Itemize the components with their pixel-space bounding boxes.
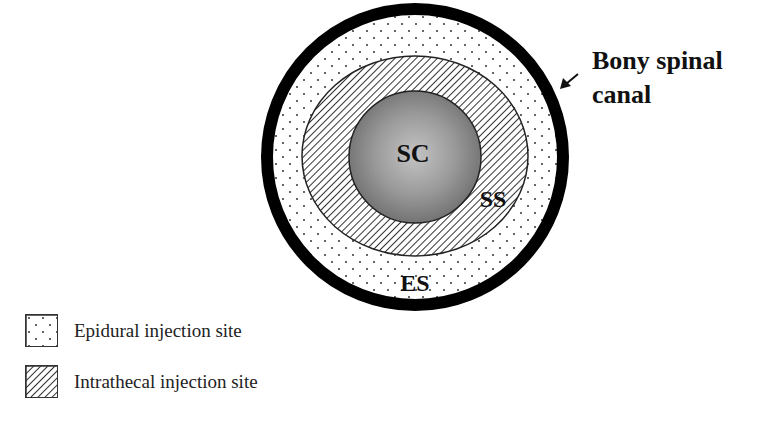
label-es: ES [400,270,429,296]
dots-swatch-icon [25,314,58,347]
legend-label: Intrathecal injection site [74,371,258,393]
legend-item-epidural: Epidural injection site [25,314,242,347]
bony-canal-callout: Bony spinal canal [592,44,723,112]
label-ss: SS [480,186,507,212]
legend-item-intrathecal: Intrathecal injection site [25,365,258,398]
callout-line-2: canal [592,78,723,112]
arrow-icon [560,74,578,89]
hatch-swatch-icon [25,365,58,398]
legend-label: Epidural injection site [74,320,242,342]
callout-line-1: Bony spinal [592,44,723,78]
label-sc: SC [396,139,429,168]
